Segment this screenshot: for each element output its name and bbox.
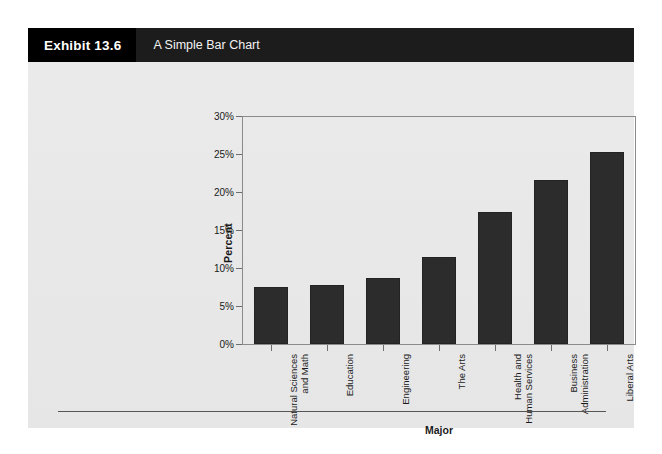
y-axis-tick-label: 20% <box>214 187 234 198</box>
bars-layer <box>243 116 635 344</box>
y-axis-tick-label: 25% <box>214 149 234 160</box>
x-axis-category-label: Natural Sciencesand Math <box>288 354 310 454</box>
y-axis-tick-label: 5% <box>220 301 234 312</box>
x-axis-category-label: BusinessAdministration <box>568 354 590 454</box>
exhibit-header-band: Exhibit 13.6 A Simple Bar Chart <box>28 28 634 62</box>
bar <box>310 285 344 344</box>
x-axis-category-label: Education <box>344 354 355 454</box>
bar <box>254 287 288 344</box>
y-axis-tick-mark <box>236 116 242 117</box>
x-axis-category-label: Engineering <box>400 354 411 454</box>
y-axis-tick-mark <box>236 230 242 231</box>
exhibit-number-label: Exhibit 13.6 <box>28 28 136 62</box>
x-axis-category-label: The Arts <box>456 354 467 454</box>
x-axis-category-label-line: Health and <box>512 354 523 454</box>
x-axis-category-label: Health andHuman Services <box>512 354 534 454</box>
x-axis-category-label-line: Liberal Arts <box>624 354 635 454</box>
x-axis-category-label: Liberal Arts <box>624 354 635 454</box>
x-axis-category-label-line: Business <box>568 354 579 454</box>
x-axis-category-label-line: Administration <box>579 354 590 454</box>
y-axis-tick-label: 15% <box>214 225 234 236</box>
x-axis-tick-mark <box>495 345 496 351</box>
bar <box>534 180 568 344</box>
x-axis-category-label-line: Education <box>344 354 355 454</box>
y-axis-tick-labels: 0%5%10%15%20%25%30% <box>198 62 234 428</box>
x-axis-tick-mark <box>271 345 272 351</box>
x-axis-tick-mark <box>439 345 440 351</box>
y-axis-tick-label: 0% <box>220 339 234 350</box>
y-axis-tick-mark <box>236 306 242 307</box>
x-axis-category-label-line: The Arts <box>456 354 467 454</box>
bar <box>366 278 400 344</box>
bar <box>478 212 512 344</box>
bar <box>590 152 624 344</box>
x-axis-category-label-line: Human Services <box>523 354 534 454</box>
footer-divider <box>58 411 606 412</box>
exhibit-page: Exhibit 13.6 A Simple Bar Chart Percent … <box>0 0 662 454</box>
exhibit-card: Exhibit 13.6 A Simple Bar Chart Percent … <box>28 28 634 428</box>
y-axis-tick-mark <box>236 192 242 193</box>
bar-chart: Percent 0%5%10%15%20%25%30% Major Natura… <box>28 62 634 428</box>
x-axis-tick-mark <box>383 345 384 351</box>
y-axis-tick-mark <box>236 268 242 269</box>
x-axis-category-label-line: and Math <box>299 354 310 454</box>
y-axis-tick-mark <box>236 154 242 155</box>
exhibit-title: A Simple Bar Chart <box>136 28 259 62</box>
y-axis-tick-mark <box>236 344 242 345</box>
x-axis-tick-mark <box>551 345 552 351</box>
x-axis-tick-mark <box>607 345 608 351</box>
x-axis-category-label-line: Engineering <box>400 354 411 454</box>
x-axis-tick-mark <box>327 345 328 351</box>
bar <box>422 257 456 344</box>
y-axis-tick-label: 10% <box>214 263 234 274</box>
y-axis-tick-label: 30% <box>214 111 234 122</box>
x-axis-category-label-line: Natural Sciences <box>288 354 299 454</box>
